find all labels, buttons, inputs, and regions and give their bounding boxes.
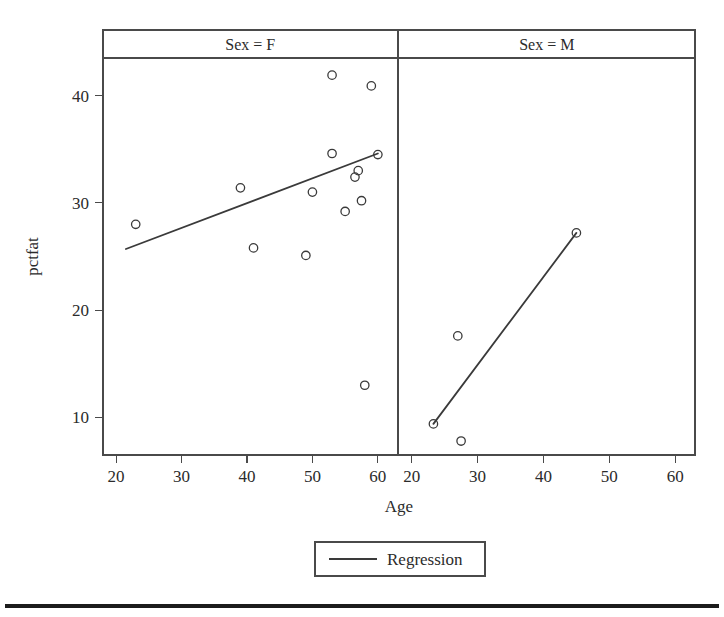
- y-tick-label-20: 20: [72, 301, 89, 320]
- x-tick-label-f-20: 20: [108, 467, 125, 486]
- trellis-scatter-figure: Sex = FSex = M10203040203040506020304050…: [0, 0, 724, 617]
- x-tick-label-f-40: 40: [238, 467, 255, 486]
- strip-label-f: Sex = F: [225, 36, 275, 53]
- data-point-f-12: [367, 82, 375, 90]
- panel-frame-m: [399, 58, 696, 455]
- legend-label-regression: Regression: [387, 550, 463, 569]
- x-tick-label-m-60: 60: [667, 467, 684, 486]
- plot-canvas: Sex = FSex = M10203040203040506020304050…: [0, 0, 724, 617]
- y-tick-label-30: 30: [72, 194, 89, 213]
- data-point-m-2: [457, 437, 465, 445]
- y-tick-label-40: 40: [72, 87, 89, 106]
- x-tick-label-m-40: 40: [535, 467, 552, 486]
- x-tick-label-f-50: 50: [304, 467, 321, 486]
- regression-line-f: [126, 153, 378, 248]
- y-tick-label-10: 10: [72, 408, 89, 427]
- x-tick-label-f-60: 60: [369, 467, 386, 486]
- data-point-f-2: [249, 244, 257, 252]
- x-tick-label-m-30: 30: [469, 467, 486, 486]
- data-point-f-6: [328, 149, 336, 157]
- data-point-m-1: [454, 332, 462, 340]
- x-axis-title: Age: [385, 497, 413, 516]
- data-point-f-10: [357, 197, 365, 205]
- data-point-f-7: [341, 207, 349, 215]
- data-point-f-0: [132, 220, 140, 228]
- data-point-f-11: [361, 381, 369, 389]
- strip-label-m: Sex = M: [519, 36, 574, 53]
- data-point-f-4: [308, 188, 316, 196]
- x-tick-label-m-50: 50: [601, 467, 618, 486]
- footer-rule: [5, 604, 719, 608]
- regression-line-m: [433, 233, 576, 424]
- y-axis-title: pctfat: [23, 237, 42, 276]
- panel-frame-f: [103, 58, 398, 455]
- data-point-f-1: [236, 184, 244, 192]
- x-tick-label-m-20: 20: [403, 467, 420, 486]
- data-point-f-3: [302, 251, 310, 259]
- data-point-f-5: [328, 71, 336, 79]
- x-tick-label-f-30: 30: [173, 467, 190, 486]
